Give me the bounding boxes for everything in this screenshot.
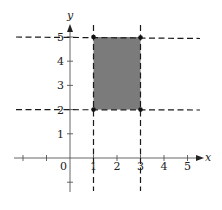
point-1-5 — [91, 35, 96, 40]
origin-label: 0 — [60, 160, 67, 173]
x-axis-arrow-icon — [196, 155, 204, 161]
y-tick-label-2: 2 — [57, 104, 64, 117]
shaded-region — [94, 37, 141, 110]
coordinate-plane-figure: 0 1 2 3 4 5 1 2 3 4 5 x y — [0, 0, 222, 210]
y-tick-labels: 1 2 3 4 5 — [57, 31, 64, 141]
point-3-2 — [138, 107, 143, 112]
x-tick-label-1: 1 — [90, 160, 97, 173]
x-tick-label-5: 5 — [184, 160, 191, 173]
y-axis-label: y — [66, 9, 74, 22]
y-tick-label-1: 1 — [57, 128, 64, 141]
y-axis-arrow-icon — [67, 24, 73, 32]
x-tick-label-2: 2 — [114, 160, 121, 173]
y-axis — [67, 24, 73, 192]
x-axis-label: x — [205, 151, 212, 164]
x-axis — [14, 155, 204, 161]
y-tick-label-3: 3 — [57, 79, 64, 92]
plot-svg: 0 1 2 3 4 5 1 2 3 4 5 x y — [0, 0, 222, 210]
point-1-2 — [91, 107, 96, 112]
point-3-5 — [138, 35, 143, 40]
x-tick-label-3: 3 — [137, 160, 144, 173]
x-tick-labels: 0 1 2 3 4 5 — [60, 160, 191, 173]
y-tick-label-4: 4 — [57, 55, 64, 68]
x-tick-label-4: 4 — [161, 160, 168, 173]
y-tick-label-5: 5 — [57, 31, 64, 44]
